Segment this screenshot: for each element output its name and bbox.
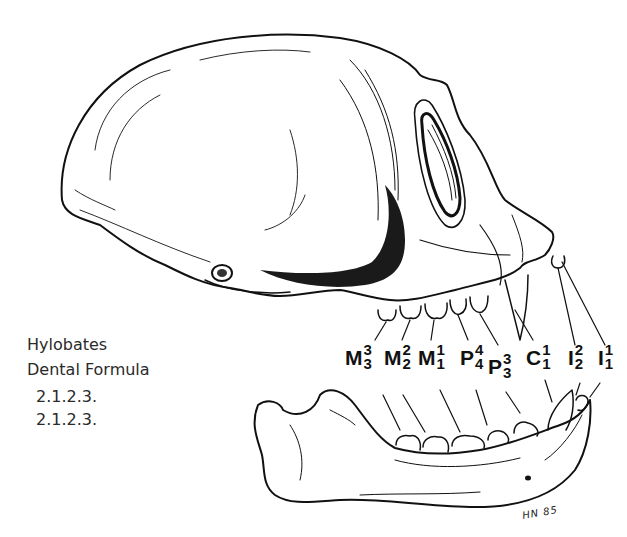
upper-dental-formula: 2.1.2.3. <box>36 389 97 405</box>
lower-count: 4 <box>475 357 483 371</box>
tooth-letter: P <box>460 347 474 368</box>
tooth-letter: P <box>488 356 502 377</box>
tooth-label-c1: C 11 <box>526 343 551 371</box>
tooth-letter: I <box>568 347 574 368</box>
lower-count: 1 <box>605 357 613 371</box>
tooth-label-m3: M 33 <box>345 343 372 371</box>
genus-label: Hylobates <box>27 337 107 353</box>
tooth-letter: C <box>526 347 541 368</box>
tooth-letter: M <box>384 347 402 368</box>
tooth-label-m2: M 22 <box>384 343 411 371</box>
dental-formula-title: Dental Formula <box>27 362 150 378</box>
tooth-label-i2: I 22 <box>568 343 583 371</box>
mandible-outline <box>255 390 591 507</box>
tooth-label-p4: P 44 <box>460 343 483 371</box>
lower-teeth <box>396 390 588 452</box>
lower-count: 2 <box>575 357 583 371</box>
lower-count: 1 <box>437 357 445 371</box>
lower-dental-formula: 2.1.2.3. <box>36 412 97 428</box>
cranium-outline <box>62 35 554 301</box>
tooth-label-p3: P 33 <box>488 352 511 380</box>
tooth-label-i1: I 11 <box>598 343 613 371</box>
lower-count: 2 <box>403 357 411 371</box>
temporal-fossa-shading <box>260 185 405 287</box>
tooth-letter: M <box>418 347 436 368</box>
skull-illustration <box>0 0 627 537</box>
lower-count: 3 <box>364 357 372 371</box>
lower-count: 3 <box>503 366 511 380</box>
mental-foramen <box>525 476 531 481</box>
tooth-label-m1: M 11 <box>418 343 445 371</box>
orbit-inner <box>422 114 460 216</box>
tooth-letter: M <box>345 347 363 368</box>
lower-count: 1 <box>542 357 550 371</box>
upper-teeth <box>378 256 565 340</box>
upper-canine <box>505 275 528 340</box>
tooth-letter: I <box>598 347 604 368</box>
